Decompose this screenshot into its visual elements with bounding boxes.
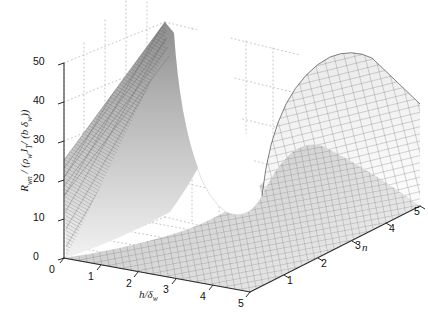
dtick-5: 5 — [238, 297, 244, 309]
horizontal-axis-label: n — [362, 241, 368, 253]
vtick-0: 0 — [33, 250, 39, 262]
vtick-40: 40 — [33, 94, 45, 106]
vtick-30: 30 — [33, 133, 45, 145]
vertical-axis-label: Rwn / (ρwJT/ (b δw)) — [18, 76, 33, 226]
ntick-4: 4 — [389, 222, 395, 234]
ntick-5: 5 — [414, 205, 420, 217]
axis-ticks-vertical — [58, 63, 64, 260]
ntick-2: 2 — [321, 257, 327, 269]
dtick-4: 4 — [200, 290, 206, 302]
dtick-0: 0 — [49, 263, 55, 275]
surface-plot-figure: Rwn / (ρwJT/ (b δw)) 0 10 20 30 40 50 0 … — [0, 0, 428, 320]
vtick-10: 10 — [33, 211, 45, 223]
plot-canvas — [0, 0, 428, 320]
dtick-2: 2 — [126, 277, 132, 289]
ntick-3: 3 — [355, 239, 361, 251]
ntick-1: 1 — [287, 274, 293, 286]
depth-axis-label: h/δw — [139, 288, 158, 303]
dtick-1: 1 — [88, 270, 94, 282]
dtick-3: 3 — [163, 283, 169, 295]
vtick-50: 50 — [33, 55, 45, 67]
vtick-20: 20 — [33, 172, 45, 184]
